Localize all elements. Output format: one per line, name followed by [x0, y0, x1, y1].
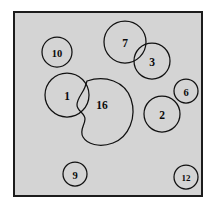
shape-label-3: 3 — [149, 56, 155, 68]
shape-label-16: 16 — [96, 99, 108, 111]
shape-outline-blob-16[interactable] — [77, 79, 133, 145]
shape-group-12[interactable]: 12 — [174, 165, 198, 189]
shape-group-1[interactable]: 1 — [45, 73, 89, 117]
shape-group-6[interactable]: 6 — [174, 79, 198, 103]
shape-label-7: 7 — [122, 37, 128, 49]
screenshot-canvas: 10 7 3 6 16 — [0, 0, 213, 210]
diagram-canvas: 10 7 3 6 16 — [15, 13, 201, 195]
shape-label-1: 1 — [64, 90, 70, 102]
shape-label-10: 10 — [52, 48, 63, 59]
shape-label-9: 9 — [72, 170, 77, 181]
shape-label-12: 12 — [182, 173, 192, 183]
shape-group-10[interactable]: 10 — [42, 37, 72, 67]
shape-group-16[interactable]: 16 — [77, 79, 133, 145]
shape-label-6: 6 — [183, 87, 188, 98]
diagram-frame: 10 7 3 6 16 — [13, 11, 203, 197]
shape-group-2[interactable]: 2 — [144, 96, 180, 132]
shape-group-3[interactable]: 3 — [134, 43, 170, 79]
shape-label-2: 2 — [159, 109, 165, 121]
shape-group-9[interactable]: 9 — [63, 162, 87, 186]
shape-group-7[interactable]: 7 — [104, 21, 146, 63]
